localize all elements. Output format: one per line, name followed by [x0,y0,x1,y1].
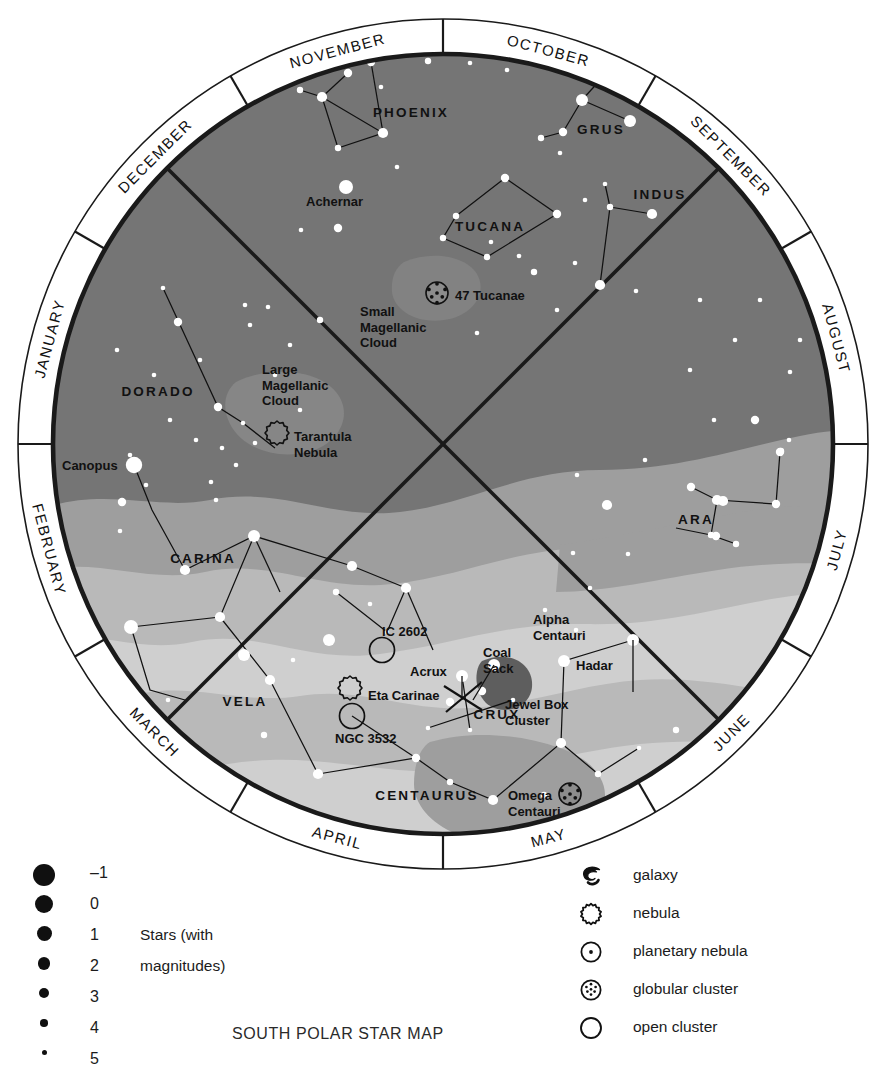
star [538,135,544,141]
object-label: Cloud [262,393,299,408]
object-label: Alpha [533,612,570,627]
star-magnitude-dot [42,1050,47,1055]
magnitude-row: –1 [20,860,280,891]
star [166,698,171,703]
object-label: Magellanic [360,320,426,335]
magnitude-note-line: magnitudes) [140,957,225,975]
star [673,727,679,733]
star [248,323,253,328]
object-label: Cluster [505,713,550,728]
star [344,69,352,77]
star [573,261,578,266]
star [733,338,738,343]
star [347,561,357,571]
star [174,318,182,326]
star [214,498,219,503]
object-label: Sack [483,661,514,676]
star [198,358,203,363]
star [688,368,693,373]
star [261,732,267,738]
magnitude-row: 3 [20,984,280,1015]
star [698,298,703,303]
legend-symbol-label: galaxy [633,866,678,884]
star [758,298,763,303]
magnitude-value: 0 [90,895,99,913]
star-magnitude-dot [39,988,49,998]
star [425,58,431,64]
star [583,198,588,203]
star [718,496,728,506]
star [215,612,225,622]
magnitude-value: 1 [90,926,99,944]
star [634,289,639,294]
magnitude-value: 4 [90,1019,99,1037]
star [128,453,133,458]
globular-cluster-icon [426,282,448,305]
legend-symbol-label: planetary nebula [633,942,748,960]
star [595,280,605,290]
star [180,565,190,575]
object-label: Eta Carinae [368,688,440,703]
star [603,182,608,187]
star [291,658,296,663]
object-label: IC 2602 [382,624,428,639]
star [298,408,303,413]
star [447,779,453,785]
star [555,308,560,313]
object-label: Coal [483,645,511,660]
constellation-label: PHOENIX [373,105,449,120]
planetary-nebula-icon [575,936,607,968]
star [379,85,384,90]
constellation-label: ARA [678,512,714,527]
star [333,589,339,595]
legend-symbol-label: open cluster [633,1018,717,1036]
legend-symbol-row: open cluster [575,1012,871,1050]
star [313,769,323,779]
magnitude-value: 3 [90,988,99,1006]
star [788,370,793,375]
star [297,87,303,93]
star [647,209,657,219]
star-map-svg: PHOENIXGRUSINDUSTUCANADORADOCARINAVELACE… [0,0,871,880]
object-label: Small [360,304,395,319]
star [412,754,420,762]
magnitude-legend: –101Stars (with2magnitudes)345 [20,860,280,1077]
star [558,151,563,156]
star [339,180,353,194]
star [335,145,341,151]
object-label: Magellanic [262,378,328,393]
object-label: 47 Tucanae [455,288,525,303]
object-label: Jewel Box [505,697,569,712]
star [588,586,593,591]
star-map: PHOENIXGRUSINDUSTUCANADORADOCARINAVELACE… [0,0,871,880]
star [152,373,157,378]
star [798,338,803,343]
star [468,61,473,66]
star-magnitude-dot [33,864,55,886]
object-label: NGC 3532 [335,731,396,746]
object-label: Canopus [62,458,118,473]
star [395,165,400,170]
star [209,480,214,485]
magnitude-row: 5 [20,1046,280,1077]
constellation-label: GRUS [577,122,625,137]
star [241,421,246,426]
star [607,204,613,210]
magnitude-row: 0 [20,891,280,922]
star [712,532,720,540]
star [488,795,498,805]
star [426,726,431,731]
magnitude-row: 1Stars (with [20,922,280,953]
star [265,675,275,685]
star [317,317,323,323]
object-label: Centauri [533,628,586,643]
globular-cluster-icon [559,783,581,806]
star [334,224,342,232]
object-label: Acrux [410,664,448,679]
star [553,210,561,218]
star [317,92,327,102]
legend-symbol-label: nebula [633,904,680,922]
star [288,343,293,348]
object-label: Achernar [306,194,363,209]
nebula-icon [575,898,607,930]
